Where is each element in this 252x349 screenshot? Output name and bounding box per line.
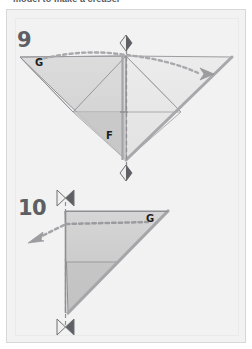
step-10-number: 10 [18,196,46,220]
step9-left-inner-band [73,112,126,160]
step9-diamond-marker-top [120,35,132,51]
step-9-label-G: G [35,57,43,68]
step-9-diagram [0,0,252,190]
step9-diamond-marker-bottom [120,165,132,181]
step10-dotted-guide-exit [42,225,64,236]
step10-arrow-head-left [28,232,44,243]
step-9-label-F: F [106,130,113,141]
step-10-label-G: G [146,213,154,224]
origami-instruction-page: model to make a creaser [0,0,252,349]
step-9-number: 9 [17,28,31,52]
